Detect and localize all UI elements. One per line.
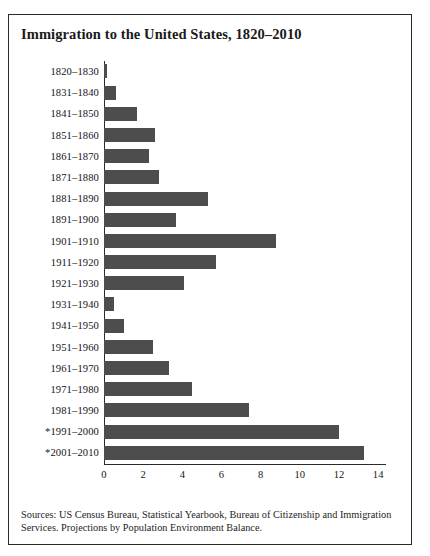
bar-category-label: 1901–1910: [9, 236, 99, 247]
bar: [104, 403, 249, 417]
bar-category-label: 1841–1850: [9, 108, 99, 119]
bar-track: [104, 167, 404, 188]
source-line-1: Sources: US Census Bureau, Statistical Y…: [21, 508, 401, 522]
bar-track: [104, 294, 404, 315]
bar: [104, 170, 159, 184]
plot-area: 1820–18301831–18401841–18501851–18601861…: [9, 61, 411, 481]
bar-track: [104, 421, 404, 442]
bar-track: [104, 400, 404, 421]
bar-category-label: *1991–2000: [9, 426, 99, 437]
bar-category-label: 1891–1900: [9, 214, 99, 225]
bar: [104, 340, 153, 354]
bar-track: [104, 231, 404, 252]
bar-category-label: 1820–1830: [9, 66, 99, 77]
bar-category-label: 1831–1840: [9, 87, 99, 98]
bar-category-label: 1971–1980: [9, 384, 99, 395]
bar-category-label: *2001–2010: [9, 447, 99, 458]
bar-category-label: 1981–1990: [9, 405, 99, 416]
x-axis-tick-label: 6: [219, 469, 224, 480]
bar-row: *2001–2010: [9, 442, 411, 463]
chart-figure: Immigration to the United States, 1820–2…: [8, 14, 412, 545]
x-axis-ticks: 02468101214: [104, 469, 404, 487]
x-axis-tick-label: 2: [141, 469, 146, 480]
bar: [104, 297, 114, 311]
bar-track: [104, 442, 404, 463]
bar-track: [104, 379, 404, 400]
bar-rows: 1820–18301831–18401841–18501851–18601861…: [9, 61, 411, 464]
bar-track: [104, 103, 404, 124]
bar-track: [104, 315, 404, 336]
bar-track: [104, 188, 404, 209]
bar: [104, 149, 149, 163]
bar-track: [104, 336, 404, 357]
bar-track: [104, 273, 404, 294]
bar-category-label: 1911–1920: [9, 257, 99, 268]
bar-category-label: 1931–1940: [9, 299, 99, 310]
bar-row: 1911–1920: [9, 252, 411, 273]
bar: [104, 107, 137, 121]
bar: [104, 234, 276, 248]
bar-row: 1971–1980: [9, 379, 411, 400]
bar-row: 1961–1970: [9, 358, 411, 379]
bar-row: 1931–1940: [9, 294, 411, 315]
chart-title: Immigration to the United States, 1820–2…: [21, 26, 302, 43]
bar-category-label: 1921–1930: [9, 278, 99, 289]
x-axis-tick-label: 4: [180, 469, 185, 480]
bar: [104, 361, 169, 375]
x-axis-tick-label: 14: [373, 469, 384, 480]
bar-row: 1891–1900: [9, 209, 411, 230]
bar-track: [104, 358, 404, 379]
bar: [104, 86, 116, 100]
bar: [104, 319, 124, 333]
bar: [104, 128, 155, 142]
bar-row: 1820–1830: [9, 61, 411, 82]
x-axis-tick-label: 10: [295, 469, 306, 480]
bar-track: [104, 209, 404, 230]
bar-row: 1901–1910: [9, 231, 411, 252]
x-axis-tick-label: 0: [101, 469, 106, 480]
bar-track: [104, 61, 404, 82]
bar-row: *1991–2000: [9, 421, 411, 442]
source-note: Sources: US Census Bureau, Statistical Y…: [21, 508, 401, 535]
x-axis-tick-label: 12: [334, 469, 345, 480]
bar-row: 1951–1960: [9, 336, 411, 357]
source-line-2: Services. Projections by Population Envi…: [21, 521, 401, 535]
bar-row: 1881–1890: [9, 188, 411, 209]
bar-track: [104, 125, 404, 146]
bar-row: 1841–1850: [9, 103, 411, 124]
bar: [104, 255, 216, 269]
bar-category-label: 1861–1870: [9, 151, 99, 162]
bar-row: 1871–1880: [9, 167, 411, 188]
bar-row: 1831–1840: [9, 82, 411, 103]
bar: [104, 192, 208, 206]
bar-category-label: 1851–1860: [9, 130, 99, 141]
bar-row: 1921–1930: [9, 273, 411, 294]
bar-row: 1941–1950: [9, 315, 411, 336]
bar-row: 1861–1870: [9, 146, 411, 167]
bar: [104, 276, 184, 290]
bar-track: [104, 252, 404, 273]
bar-category-label: 1881–1890: [9, 193, 99, 204]
bar: [104, 446, 364, 460]
bar-row: 1851–1860: [9, 125, 411, 146]
x-axis-line: [104, 464, 386, 465]
bar-category-label: 1961–1970: [9, 363, 99, 374]
bar-track: [104, 82, 404, 103]
bar: [104, 213, 176, 227]
bar: [104, 382, 192, 396]
bar-track: [104, 146, 404, 167]
bar-category-label: 1951–1960: [9, 342, 99, 353]
x-axis-tick-label: 8: [258, 469, 263, 480]
bar-row: 1981–1990: [9, 400, 411, 421]
bar: [104, 425, 339, 439]
bar-category-label: 1871–1880: [9, 172, 99, 183]
bar-category-label: 1941–1950: [9, 320, 99, 331]
bar: [104, 64, 107, 78]
